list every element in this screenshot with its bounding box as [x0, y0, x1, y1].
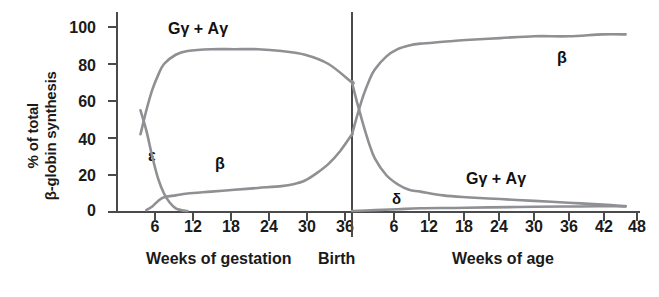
- curve-gamma: [141, 49, 626, 206]
- x-axis-ticks-postnatal: [394, 212, 637, 221]
- series-curves: [141, 34, 626, 211]
- x-axis-ticks-gestation: [155, 212, 345, 221]
- globin-synthesis-chart: % of totalβ-globin synthesis 100 80 60 4…: [0, 0, 659, 297]
- curve-beta: [146, 34, 625, 210]
- chart-canvas: [0, 0, 659, 297]
- curve-delta: [352, 206, 626, 211]
- y-axis-ticks: [108, 27, 117, 212]
